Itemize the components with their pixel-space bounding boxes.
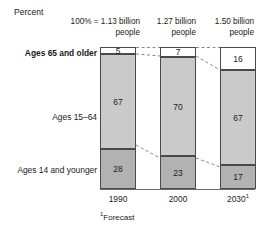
segment-1990-ages-15-64: 67 [100, 54, 136, 149]
category-label-1990-text: 1990 [109, 194, 128, 204]
segment-2030-ages-65-and-older: 16 [220, 47, 256, 70]
bar-2030[interactable]: 16 67 17 [220, 47, 256, 189]
x-axis-baseline [100, 189, 255, 190]
category-label-2030: 20301 [212, 194, 264, 204]
segment-2000-ages-65-and-older: 7 [160, 47, 196, 57]
stacked-bar-chart: Percent 100% = 1.13 billion people 1.27 … [0, 0, 265, 236]
category-label-2030-text: 2030 [227, 194, 246, 204]
segment-2030-ages-15-64: 67 [220, 70, 256, 165]
segment-2000-ages-15-64: 70 [160, 57, 196, 156]
category-label-2030-footnote-marker: 1 [246, 193, 249, 199]
category-label-1990: 1990 [92, 194, 144, 204]
chart-footnote: 1Forecast [100, 213, 134, 223]
segment-2000-ages-14-and-younger: 23 [160, 156, 196, 189]
category-label-2000: 2000 [152, 194, 204, 204]
bar-1990[interactable]: 5 67 28 [100, 47, 136, 189]
footnote-text: Forecast [103, 213, 134, 222]
category-label-2000-text: 2000 [169, 194, 188, 204]
segment-2030-ages-14-and-younger: 17 [220, 165, 256, 189]
segment-1990-ages-14-and-younger: 28 [100, 149, 136, 189]
segment-1990-ages-65-and-older: 5 [100, 47, 136, 54]
bar-2000[interactable]: 7 70 23 [160, 47, 196, 189]
